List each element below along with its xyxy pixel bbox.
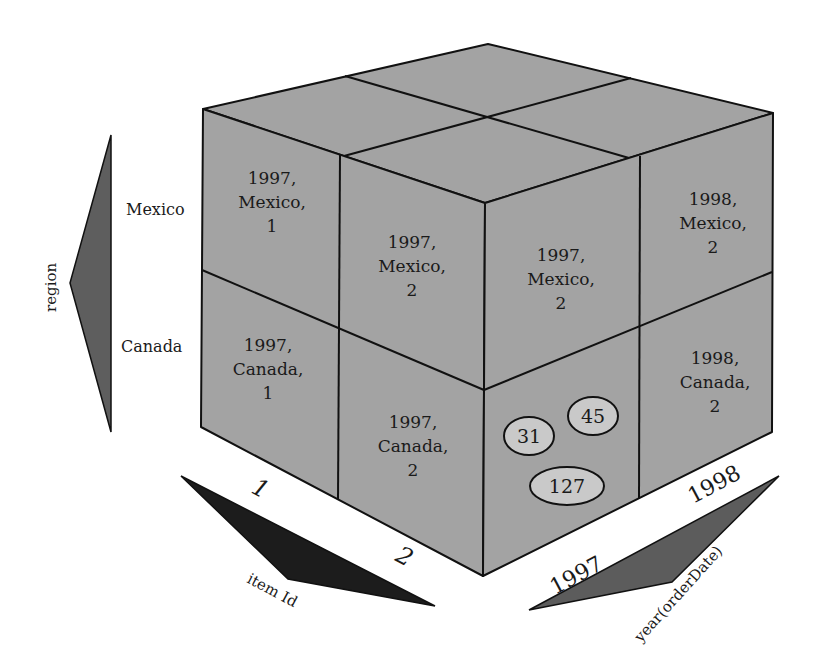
cell-label-line2: Canada, [378, 436, 449, 456]
value-text: 31 [517, 425, 541, 447]
cell-label-line3: 2 [407, 280, 418, 300]
value-bubble-127: 127 [530, 467, 604, 505]
cube [201, 44, 773, 576]
cell-label-line1: 1997, [248, 168, 297, 188]
value-text: 45 [581, 405, 605, 427]
item-id-member-1: 1 [247, 473, 274, 505]
cell-label-line3: 2 [710, 396, 721, 416]
data-cube-diagram: 1997, Mexico, 1 1997, Mexico, 2 1997, Ca… [0, 0, 817, 669]
cell-label-line1: 1997, [537, 245, 586, 265]
cell-label-line2: Canada, [233, 359, 304, 379]
region-member-canada: Canada [121, 337, 183, 356]
cell-label-line2: Canada, [680, 372, 751, 392]
cell-label-line3: 2 [408, 460, 419, 480]
cell-label-line2: Mexico, [527, 269, 595, 289]
cell-label-line1: 1997, [389, 412, 438, 432]
cell-label-line3: 2 [708, 237, 719, 257]
cell-label-line1: 1997, [244, 335, 293, 355]
cell-label-line1: 1998, [689, 189, 738, 209]
cell-label-line3: 2 [556, 293, 567, 313]
value-bubble-31: 31 [504, 417, 554, 455]
cell-label-line2: Mexico, [378, 256, 446, 276]
cell-label-line1: 1998, [691, 348, 740, 368]
value-text: 127 [549, 475, 585, 497]
cell-label-line1: 1997, [388, 232, 437, 252]
item-id-member-2: 2 [390, 540, 418, 572]
region-axis-label: region [42, 263, 60, 312]
cell-label-line3: 1 [263, 383, 274, 403]
cell-label-line2: Mexico, [238, 192, 306, 212]
value-bubble-45: 45 [568, 397, 618, 435]
region-member-mexico: Mexico [126, 200, 185, 219]
region-axis: Mexico Canada region [42, 135, 185, 432]
cell-label-line3: 1 [267, 216, 278, 236]
region-axis-arrow-icon [70, 135, 111, 432]
cell-label-line2: Mexico, [679, 213, 747, 233]
